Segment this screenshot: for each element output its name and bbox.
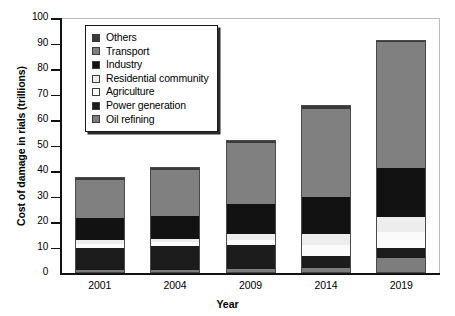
bar-segment-agriculture: [376, 232, 426, 247]
y-tick-mark: [51, 222, 60, 224]
bar-chart: Cost of damage in rials (trillions) 0102…: [0, 0, 455, 316]
bar-2014[interactable]: [301, 105, 351, 273]
legend-item-industry[interactable]: Industry: [92, 58, 208, 72]
bar-segment-oil-refining: [226, 269, 276, 273]
bar-2004[interactable]: [150, 167, 200, 273]
bar-segment-transport: [226, 143, 276, 204]
x-tick-label-2019: 2019: [356, 279, 446, 291]
bar-segment-residential-community: [301, 234, 351, 245]
y-tick-mark: [51, 44, 60, 46]
legend-swatch-icon: [92, 47, 100, 55]
bar-segment-oil-refining: [301, 268, 351, 273]
bar-2001[interactable]: [75, 177, 125, 273]
legend-item-residential-community[interactable]: Residential community: [92, 72, 208, 86]
y-tick-mark: [51, 146, 60, 148]
bar-segment-industry: [301, 197, 351, 234]
bar-segment-oil-refining: [75, 270, 125, 273]
bar-segment-power-generation: [150, 246, 200, 270]
y-tick-label: 60: [37, 113, 48, 124]
legend-item-oil-refining[interactable]: Oil refining: [92, 113, 208, 127]
y-tick-label: 90: [37, 37, 48, 48]
bar-segment-residential-community: [376, 217, 426, 232]
y-axis-title: Cost of damage in rials (trillions): [15, 31, 27, 261]
y-tick-label: 100: [32, 11, 48, 22]
y-tick-mark: [51, 197, 60, 199]
bar-segment-power-generation: [75, 248, 125, 271]
bar-segment-oil-refining: [150, 270, 200, 273]
legend: OthersTransportIndustryResidential commu…: [85, 25, 218, 132]
legend-swatch-icon: [92, 34, 100, 42]
bar-segment-transport: [301, 109, 351, 197]
y-tick-label: 30: [37, 190, 48, 201]
legend-swatch-icon: [92, 75, 100, 83]
bar-segment-agriculture: [301, 245, 351, 256]
y-tick-label: 10: [37, 241, 48, 252]
y-tick-mark: [51, 18, 60, 20]
y-tick-label: 80: [37, 62, 48, 73]
y-tick-label: 0: [43, 266, 48, 277]
bar-segment-industry: [75, 218, 125, 240]
legend-item-agriculture[interactable]: Agriculture: [92, 85, 208, 99]
bar-2019[interactable]: [376, 40, 426, 273]
y-tick-mark: [51, 248, 60, 250]
legend-item-label: Agriculture: [106, 85, 155, 99]
bar-segment-transport: [150, 170, 200, 216]
legend-item-power-generation[interactable]: Power generation: [92, 99, 208, 113]
legend-item-label: Transport: [106, 45, 149, 59]
bar-segment-transport: [376, 42, 426, 168]
bar-segment-industry: [150, 216, 200, 239]
legend-item-transport[interactable]: Transport: [92, 45, 208, 59]
y-tick-mark: [51, 69, 60, 71]
x-axis-title: Year: [0, 298, 455, 310]
legend-item-label: Others: [106, 31, 137, 45]
bar-segment-oil-refining: [376, 258, 426, 273]
legend-swatch-icon: [92, 61, 100, 69]
y-tick-label: 70: [37, 88, 48, 99]
legend-swatch-icon: [92, 88, 100, 96]
bar-segment-industry: [376, 168, 426, 216]
legend-item-label: Residential community: [106, 72, 208, 86]
legend-swatch-icon: [92, 102, 100, 110]
legend-item-others[interactable]: Others: [92, 31, 208, 45]
legend-item-label: Oil refining: [106, 113, 154, 127]
y-tick-mark: [51, 95, 60, 97]
y-tick-mark: [51, 171, 60, 173]
legend-swatch-icon: [92, 115, 100, 123]
y-tick-mark: [51, 120, 60, 122]
y-tick-label: 20: [37, 215, 48, 226]
bar-segment-power-generation: [376, 248, 426, 258]
y-tick-label: 50: [37, 139, 48, 150]
bar-segment-transport: [75, 180, 125, 218]
bar-segment-industry: [226, 204, 276, 233]
bar-segment-power-generation: [226, 245, 276, 269]
bar-2009[interactable]: [226, 140, 276, 273]
bar-segment-power-generation: [301, 256, 351, 267]
legend-item-label: Power generation: [106, 99, 186, 113]
legend-item-label: Industry: [106, 58, 142, 72]
y-tick-label: 40: [37, 164, 48, 175]
